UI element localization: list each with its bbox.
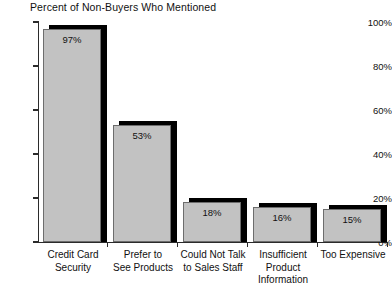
x-axis-category-label: Could Not Talkto Sales Staff [176,249,250,274]
category-label-line: Too Expensive [316,249,390,262]
category-label-line: See Products [106,262,180,275]
category-label-line: Prefer to [106,249,180,262]
y-axis-line [38,22,39,243]
bar[interactable] [43,29,101,242]
x-axis-tick-mark [387,242,388,247]
x-axis-line [38,242,388,243]
bar-value-label: 53% [113,130,171,141]
x-axis-tick-mark [247,242,248,247]
y-axis-tick-mark [33,109,39,110]
y-axis-tick-mark [33,153,39,154]
bar-value-label: 16% [253,212,311,223]
y-axis-tick-mark [33,197,39,198]
x-axis-category-label: Prefer toSee Products [106,249,180,274]
y-axis-tick-label: 80% [358,61,392,72]
x-axis-category-label: InsufficientProductInformation [246,249,320,287]
x-axis-tick-mark [317,242,318,247]
x-axis-tick-mark [107,242,108,247]
x-axis-category-label: Credit CardSecurity [36,249,110,274]
category-label-line: Information [246,274,320,287]
y-axis-tick-label: 20% [358,193,392,204]
category-label-line: Product [246,262,320,275]
y-axis-tick-mark [33,241,39,242]
y-axis-tick-mark [33,21,39,22]
category-label-line: Insufficient [246,249,320,262]
category-label-line: to Sales Staff [176,262,250,275]
category-label-line: Credit Card [36,249,110,262]
bar-value-label: 18% [183,207,241,218]
y-axis-tick-label: 60% [358,105,392,116]
category-label-line: Could Not Talk [176,249,250,262]
category-label-line: Security [36,262,110,275]
x-axis-category-label: Too Expensive [316,249,390,262]
chart-title: Percent of Non-Buyers Who Mentioned [30,1,216,13]
y-axis-tick-label: 40% [358,149,392,160]
bar[interactable] [113,125,171,242]
x-axis-tick-mark [177,242,178,247]
bar-chart: Percent of Non-Buyers Who Mentioned 0%20… [0,0,392,294]
y-axis-tick-label: 100% [358,17,392,28]
y-axis-tick-mark [33,65,39,66]
bar-value-label: 97% [43,34,101,45]
bar-value-label: 15% [323,214,381,225]
